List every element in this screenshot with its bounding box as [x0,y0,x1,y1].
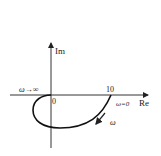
omega-infinity-label: ω→∞ [19,85,39,94]
omega-direction-label: ω [110,118,116,127]
imag-axis-label: Im [55,46,65,56]
tick-label-10: 10 [106,85,114,94]
real-axis-label: Re [139,98,149,108]
nyquist-plot: Im Re 0 10 ω→∞ ω=0 ω [0,0,161,156]
origin-label: 0 [52,97,56,106]
nyquist-curve [33,95,111,128]
omega-zero-label: ω=0 [116,100,130,108]
